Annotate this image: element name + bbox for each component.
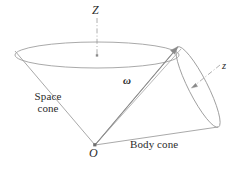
space-cone-label: Spacecone [22, 90, 74, 115]
body-cone-label: Body cone [130, 138, 178, 150]
omega-vector-arrowhead [171, 47, 179, 55]
axis-label-Z: Z [92, 4, 99, 17]
body-cone-rim-ellipse [169, 43, 227, 132]
Z-axis-center-marker [96, 54, 98, 56]
origin-label: O [89, 147, 98, 160]
omega-vector-shaft [95, 48, 177, 145]
z-axis-arrowhead [191, 83, 197, 88]
figure-container: Z z ω O Spacecone Body cone [0, 0, 244, 169]
angular-velocity-label: ω [123, 74, 131, 86]
body-cone-upper-generator [95, 49, 181, 145]
axis-label-z: z [222, 60, 226, 72]
space-cone-label-line1: Space [35, 90, 62, 102]
space-cone-label-line2: cone [22, 102, 74, 114]
cone-diagram-svg [0, 0, 244, 169]
